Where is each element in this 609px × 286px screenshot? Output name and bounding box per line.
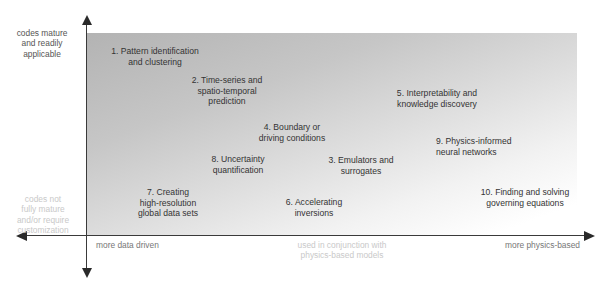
y-axis-top-label: codes mature and readily applicable bbox=[2, 28, 82, 59]
arrow-up-icon bbox=[82, 15, 92, 25]
item-time-series: 2. Time-series and spatio-temporal predi… bbox=[180, 75, 274, 107]
item-governing-equations: 10. Finding and solving governing equati… bbox=[466, 187, 584, 208]
item-pattern-identification: 1. Pattern identification and clustering bbox=[100, 46, 210, 67]
arrow-right-icon bbox=[584, 231, 595, 241]
item-interpretability: 5. Interpretability and knowledge discov… bbox=[374, 88, 500, 109]
item-physics-informed-nn: 9. Physics-informed neural networks bbox=[436, 136, 536, 157]
arrow-down-icon bbox=[82, 268, 92, 278]
y-axis-bottom-label: codes not fully mature and/or require cu… bbox=[2, 194, 84, 235]
item-high-resolution-datasets: 7. Creating high-resolution global data … bbox=[126, 187, 210, 219]
x-axis-center-label: used in conjunction with physics-based m… bbox=[272, 240, 412, 261]
horizontal-axis bbox=[22, 235, 590, 236]
item-boundary-conditions: 4. Boundary or driving conditions bbox=[242, 122, 342, 143]
x-axis-left-label: more data driven bbox=[96, 240, 176, 250]
item-emulators: 3. Emulators and surrogates bbox=[318, 155, 404, 176]
x-axis-right-label: more physics-based bbox=[490, 240, 580, 250]
item-uncertainty-quantification: 8. Uncertainty quantification bbox=[200, 154, 276, 175]
item-accelerating-inversions: 6. Accelerating inversions bbox=[274, 197, 354, 218]
